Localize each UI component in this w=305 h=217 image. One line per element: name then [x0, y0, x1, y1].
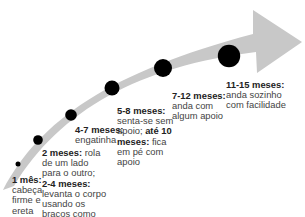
- milestone-text: engatinha: [75, 134, 116, 145]
- milestone-text: algum apoio: [172, 110, 223, 121]
- milestone-dot-3: [65, 109, 77, 121]
- milestone-dot-4: [105, 81, 120, 96]
- milestone-label-1: 1 mês: cabeça firme e ereta: [12, 175, 42, 216]
- milestone-text: braços como: [42, 208, 96, 217]
- milestone-label-2: 2 meses: rola de um lado para o outro; 2…: [42, 148, 106, 217]
- milestone-dot-6: [218, 45, 240, 67]
- milestone-text: ereta: [12, 205, 33, 216]
- milestone-label-4: 5-8 meses: senta-se sem apoio; até 10 me…: [117, 106, 173, 167]
- milestone-dot-5: [154, 59, 172, 77]
- milestone-text: apoio: [117, 156, 140, 167]
- milestone-text: com facilidade: [226, 99, 286, 110]
- milestone-label-6: 11-15 meses: anda sozinho com facilidade: [226, 80, 286, 111]
- milestone-dot-2: [33, 135, 43, 145]
- milestone-label-5: 7-12 meses: anda com algum apoio: [172, 91, 226, 122]
- milestone-dot-1: [16, 162, 21, 167]
